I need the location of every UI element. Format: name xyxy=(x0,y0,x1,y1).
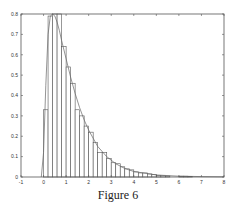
histogram-bar xyxy=(93,142,98,177)
x-tick-label: 0 xyxy=(42,179,45,185)
histogram-bar xyxy=(89,132,94,177)
y-axis-ticks: 00.10.20.30.40.50.60.70.8 xyxy=(11,11,224,180)
histogram-bar xyxy=(107,159,112,177)
histogram-bar xyxy=(53,14,58,177)
histogram-bar xyxy=(75,110,80,177)
histogram-bar xyxy=(134,172,139,177)
y-tick-label: 0.5 xyxy=(11,72,18,78)
y-tick-label: 0.6 xyxy=(11,52,18,58)
y-tick-label: 0.3 xyxy=(11,113,18,119)
histogram-bar xyxy=(62,47,67,177)
x-tick-label: 2 xyxy=(87,179,90,185)
histogram-bar xyxy=(48,16,53,177)
y-tick-label: 0.7 xyxy=(11,31,18,37)
histogram-bar xyxy=(111,163,116,177)
y-tick-label: 0 xyxy=(15,174,18,180)
histogram-bar xyxy=(71,83,76,177)
x-tick-label: 5 xyxy=(155,179,158,185)
x-tick-label: 8 xyxy=(223,179,226,185)
y-tick-label: 0.8 xyxy=(11,11,18,17)
histogram-bar xyxy=(98,153,103,177)
histogram-bar xyxy=(80,116,85,177)
histogram-bar xyxy=(84,126,89,177)
x-tick-label: 3 xyxy=(110,179,113,185)
histogram-chart: -1012345678 00.10.20.30.40.50.60.70.8 xyxy=(0,0,236,186)
y-tick-label: 0.4 xyxy=(11,92,18,98)
x-tick-label: 4 xyxy=(132,179,135,185)
histogram-bar xyxy=(66,67,71,177)
x-tick-label: -1 xyxy=(19,179,24,185)
y-tick-label: 0.2 xyxy=(11,133,18,139)
y-tick-label: 0.1 xyxy=(11,153,18,159)
histogram-bar xyxy=(44,110,49,177)
x-tick-label: 7 xyxy=(200,179,203,185)
histogram-bars xyxy=(44,14,193,177)
histogram-bar xyxy=(138,173,143,177)
x-tick-label: 6 xyxy=(177,179,180,185)
x-tick-label: 1 xyxy=(65,179,68,185)
figure-caption: Figure 6 xyxy=(0,188,236,203)
